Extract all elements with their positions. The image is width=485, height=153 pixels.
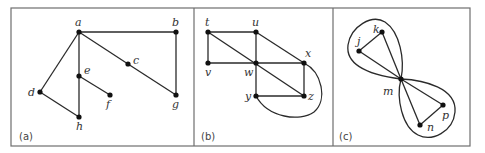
vertex-v bbox=[205, 60, 210, 65]
label-a: a bbox=[75, 16, 82, 29]
panel-c: j k m n p (c) bbox=[339, 19, 455, 142]
edge-m-p bbox=[401, 79, 443, 105]
label-p: p bbox=[442, 109, 449, 122]
vertex-h bbox=[76, 114, 81, 119]
label-b: b bbox=[172, 16, 179, 29]
label-w: w bbox=[244, 66, 254, 79]
edge-e-f bbox=[79, 76, 110, 95]
label-t: t bbox=[205, 16, 210, 29]
panel-b: t u v w x y z (b) bbox=[201, 16, 322, 142]
label-g: g bbox=[172, 98, 179, 111]
edge-a-d bbox=[40, 32, 79, 92]
label-j: j bbox=[354, 35, 361, 48]
label-x: x bbox=[305, 47, 312, 60]
vertex-x bbox=[301, 60, 306, 65]
vertex-k bbox=[379, 29, 384, 34]
vertex-g bbox=[173, 92, 178, 97]
label-f: f bbox=[105, 98, 112, 111]
edge-u-x bbox=[256, 32, 304, 63]
vertex-u bbox=[253, 29, 258, 34]
edge-a-c bbox=[79, 32, 128, 64]
panel-caption-b: (b) bbox=[201, 131, 215, 142]
panel-caption-c: (c) bbox=[339, 131, 352, 142]
label-y: y bbox=[244, 90, 252, 103]
vertex-e bbox=[76, 73, 81, 78]
label-n: n bbox=[427, 121, 434, 134]
label-e: e bbox=[84, 64, 91, 77]
label-d: d bbox=[28, 86, 35, 99]
graph-figure: a b c d e f g h (a) t u v w x y z (b) bbox=[0, 0, 485, 153]
vertex-a bbox=[76, 29, 81, 34]
vertex-w bbox=[253, 60, 258, 65]
edge-c-g bbox=[128, 64, 176, 95]
panel-caption-a: (a) bbox=[19, 131, 33, 142]
label-k: k bbox=[373, 23, 380, 36]
label-c: c bbox=[133, 54, 139, 67]
vertex-j bbox=[356, 48, 361, 53]
panel-a: a b c d e f g h (a) bbox=[19, 16, 179, 142]
vertex-f bbox=[107, 92, 112, 97]
label-u: u bbox=[252, 16, 259, 29]
label-h: h bbox=[76, 120, 83, 133]
edge-d-h bbox=[40, 92, 79, 117]
vertex-b bbox=[173, 29, 178, 34]
vertex-d bbox=[37, 89, 42, 94]
vertex-m bbox=[398, 76, 403, 81]
vertex-z bbox=[301, 93, 306, 98]
label-m: m bbox=[383, 85, 393, 98]
vertex-t bbox=[205, 29, 210, 34]
vertex-p bbox=[440, 102, 445, 107]
label-v: v bbox=[205, 66, 212, 79]
label-z: z bbox=[307, 90, 314, 103]
vertex-n bbox=[417, 122, 422, 127]
vertex-y bbox=[253, 93, 258, 98]
vertex-c bbox=[125, 61, 130, 66]
